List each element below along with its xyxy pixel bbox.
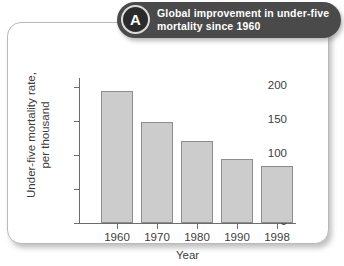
figure-container: 0 50 100 150 200 1960 1970 1980 1990 — [0, 0, 344, 266]
chart-panel: 0 50 100 150 200 1960 1970 1980 1990 — [7, 22, 329, 244]
bar-1990[interactable] — [221, 159, 253, 223]
y-tick-label-3: 150 — [227, 113, 287, 125]
plot-area: 0 50 100 150 200 1960 1970 1980 1990 — [79, 78, 296, 224]
y-axis-title-line2: per thousand — [38, 55, 52, 215]
y-tick-2 — [74, 155, 79, 156]
y-axis-title: Under-five mortality rate, per thousand — [24, 55, 52, 215]
y-tick-label-4: 200 — [227, 79, 287, 91]
title-banner: A Global improvement in under-five morta… — [117, 2, 341, 38]
bar-1960[interactable] — [101, 91, 133, 222]
y-tick-0 — [74, 223, 79, 224]
y-tick-label-2: 100 — [227, 147, 287, 159]
y-axis-title-line1: Under-five mortality rate, — [24, 55, 38, 215]
y-tick-4 — [74, 87, 79, 88]
panel-letter-badge: A — [121, 5, 150, 34]
x-tick-label-1998: 1998 — [251, 231, 303, 243]
bar-1970[interactable] — [141, 122, 173, 223]
x-tick-2 — [197, 224, 198, 229]
x-axis-title: Year — [79, 249, 296, 261]
x-tick-1 — [157, 224, 158, 229]
x-tick-3 — [237, 224, 238, 229]
bar-1998[interactable] — [261, 166, 293, 223]
chart-title: Global improvement in under-five mortali… — [157, 7, 335, 33]
y-tick-1 — [74, 189, 79, 190]
y-tick-3 — [74, 121, 79, 122]
x-tick-0 — [117, 224, 118, 229]
y-axis-line — [79, 78, 80, 224]
bar-1980[interactable] — [181, 141, 213, 223]
x-tick-4 — [277, 224, 278, 229]
